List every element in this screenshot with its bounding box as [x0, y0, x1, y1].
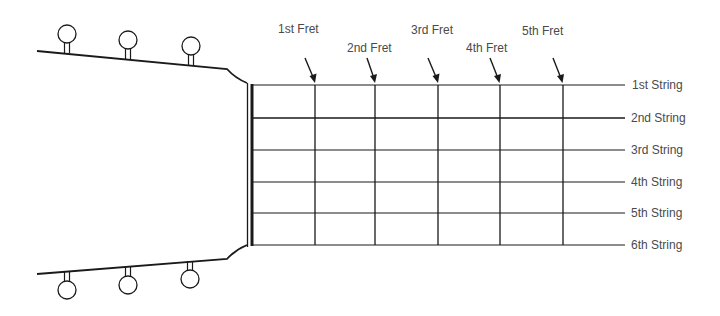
- fret-label-1: 1st Fret: [278, 22, 319, 36]
- strings: [253, 85, 625, 245]
- headstock-bottom-edge: [37, 245, 247, 274]
- arrow-down-icon: [367, 58, 377, 83]
- frets: [315, 85, 563, 245]
- tuning-peg-icon: [119, 267, 137, 294]
- tuning-peg-icon: [119, 31, 137, 59]
- arrow-down-icon: [553, 58, 564, 83]
- arrow-down-icon: [305, 58, 317, 83]
- tuning-peg-icon: [182, 37, 200, 65]
- fret-label-4: 4th Fret: [466, 41, 508, 55]
- tuning-peg-icon: [58, 272, 76, 299]
- string-label-6: 6th String: [631, 238, 682, 252]
- arrow-down-icon: [490, 58, 501, 83]
- fret-arrows: [305, 58, 564, 83]
- headstock: [37, 51, 247, 274]
- headstock-top-edge: [37, 51, 247, 83]
- string-label-4: 4th String: [631, 175, 682, 189]
- string-label-3: 3rd String: [631, 143, 683, 157]
- fret-label-5: 5th Fret: [522, 24, 564, 38]
- fret-labels: 1st Fret 2nd Fret 3rd Fret 4th Fret 5th …: [278, 22, 564, 55]
- fret-label-3: 3rd Fret: [411, 23, 454, 37]
- string-labels: 1st String 2nd String 3rd String 4th Str…: [631, 78, 686, 252]
- guitar-fretboard-diagram: 1st Fret 2nd Fret 3rd Fret 4th Fret 5th …: [0, 0, 720, 316]
- string-label-2: 2nd String: [631, 111, 686, 125]
- fret-label-2: 2nd Fret: [347, 41, 392, 55]
- arrow-down-icon: [428, 58, 440, 83]
- tuning-peg-icon: [58, 25, 76, 53]
- tuning-peg-icon: [181, 261, 199, 288]
- string-label-5: 5th String: [631, 206, 682, 220]
- string-label-1: 1st String: [632, 78, 683, 92]
- nut: [248, 83, 253, 247]
